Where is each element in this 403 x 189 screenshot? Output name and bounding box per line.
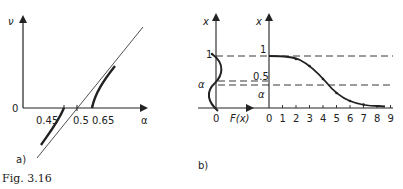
figure-caption: Fig. 3.16 [2,172,52,185]
svg-text:0: 0 [266,113,272,124]
panel-a-origin-label: 0 [12,103,18,114]
panel-a-label: a) [16,154,26,165]
panel-b: x x 1 α 1 0.5 α 0 F(x) 0 1 2 3 4 5 6 7 8… [198,15,394,171]
panel-b-right-level-alpha: α [258,89,265,100]
panel-b-tick-labels: 0 1 2 3 4 5 6 7 8 9 [266,113,394,124]
svg-text:4: 4 [320,113,326,124]
svg-text:8: 8 [374,113,380,124]
panel-b-left-level-1: 1 [206,49,212,60]
panel-a-upper-branch [92,66,115,108]
panel-b-decay-curve [269,56,385,107]
panel-b-data-points [295,58,365,106]
panel-a-tick-065: 0.65 [92,115,114,126]
svg-text:7: 7 [361,113,367,124]
panel-b-F-label: F(x) [230,113,249,124]
panel-b-right-y-label: x [255,16,262,27]
svg-text:1: 1 [280,113,286,124]
panel-a-x-label: α [141,115,148,126]
panel-b-left-y-label: x [202,16,209,27]
panel-a-reference-line [37,27,143,158]
svg-text:6: 6 [347,113,353,124]
panel-b-label: b) [198,160,208,171]
panel-b-right-level-05: 0.5 [253,71,269,82]
figure-canvas: ν 0 0.45 0.5 0.65 α a) Fig. 3.16 [0,0,403,189]
panel-b-left-origin: 0 [213,113,219,124]
panel-a-tick-045: 0.45 [36,115,58,126]
svg-text:2: 2 [293,113,299,124]
svg-text:9: 9 [388,113,394,124]
panel-b-right-level-1: 1 [260,44,266,55]
svg-text:5: 5 [334,113,340,124]
panel-b-F-curve [209,54,222,111]
svg-text:3: 3 [307,113,313,124]
panel-b-left-level-alpha: α [198,79,205,90]
panel-a-y-label: ν [8,16,14,27]
panel-a-tick-05: 0.5 [73,115,89,126]
panel-a: ν 0 0.45 0.5 0.65 α a) [8,16,148,165]
